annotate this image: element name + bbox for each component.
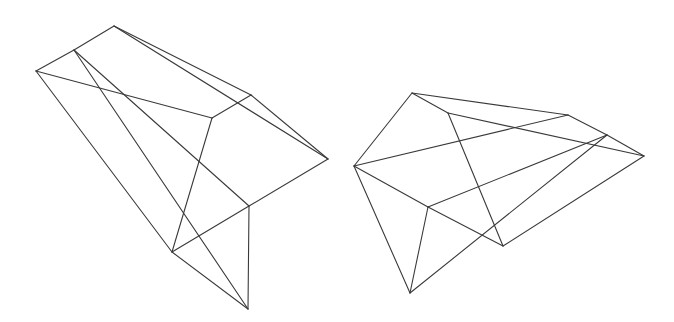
right-wireframe-polyhedron <box>354 93 644 293</box>
edge-N-R <box>251 95 328 159</box>
edge-F-C <box>354 115 568 166</box>
edge-A-C <box>412 93 568 115</box>
edge-Q-S <box>172 252 248 309</box>
edge-U-S <box>74 50 248 309</box>
edge-D-E <box>607 135 644 156</box>
edge-L-Q <box>36 71 172 252</box>
edge-I-D <box>410 135 607 293</box>
left-wireframe-polyhedron <box>36 26 328 309</box>
edge-F-G <box>354 166 428 207</box>
edge-U-L <box>36 50 74 71</box>
edge-B-E <box>448 113 644 156</box>
edge-T-R <box>114 26 328 159</box>
edge-P-S <box>248 206 249 309</box>
edge-R-P <box>249 159 328 206</box>
edge-U-P <box>74 50 249 206</box>
wireframe-figure <box>0 0 674 322</box>
edge-T-U <box>74 26 114 50</box>
edge-F-I <box>354 166 410 293</box>
edge-C-D <box>568 115 607 135</box>
edge-A-F <box>354 93 412 166</box>
edge-G-H <box>428 207 503 246</box>
edge-T-N <box>114 26 251 95</box>
